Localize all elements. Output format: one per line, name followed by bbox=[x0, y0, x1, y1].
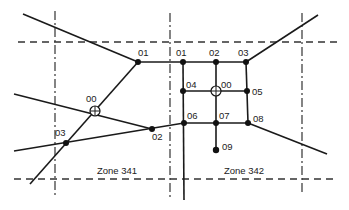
zone-341-label: Zone 341 bbox=[97, 165, 137, 176]
label-342-08: 08 bbox=[253, 113, 264, 124]
label-342-03: 03 bbox=[238, 47, 249, 58]
label-342-00: 00 bbox=[221, 79, 232, 90]
label-342-01: 01 bbox=[176, 47, 187, 58]
label-342-04: 04 bbox=[186, 79, 197, 90]
centroid-342-icon bbox=[211, 86, 221, 96]
label-341-03: 03 bbox=[55, 127, 66, 138]
zone-network-diagram: 01 00 02 03 01 02 03 04 00 05 06 07 08 0… bbox=[0, 0, 349, 210]
link-col-left bbox=[183, 62, 184, 200]
label-342-06: 06 bbox=[187, 110, 198, 121]
link-03-to-ne bbox=[246, 15, 318, 62]
node-342-08 bbox=[245, 120, 251, 126]
node-341-03 bbox=[63, 140, 69, 146]
node-342-02 bbox=[213, 59, 219, 65]
zone-341-links bbox=[14, 14, 184, 184]
node-342-09 bbox=[213, 147, 219, 153]
link-08-to-se bbox=[248, 123, 327, 154]
label-342-07: 07 bbox=[219, 110, 230, 121]
node-341-01 bbox=[135, 59, 141, 65]
node-342-03 bbox=[243, 59, 249, 65]
label-342-02: 02 bbox=[209, 47, 220, 58]
centroid-341-icon bbox=[90, 106, 100, 116]
label-342-05: 05 bbox=[252, 86, 263, 97]
link-nw-to-01 bbox=[23, 14, 138, 62]
node-342-05 bbox=[244, 88, 250, 94]
zone-341-nodes bbox=[63, 59, 155, 146]
label-341-01: 01 bbox=[138, 47, 149, 58]
label-341-00: 00 bbox=[86, 93, 97, 104]
node-342-01 bbox=[180, 59, 186, 65]
label-342-09: 09 bbox=[222, 141, 233, 152]
label-341-02: 02 bbox=[152, 131, 163, 142]
zone-342-label: Zone 342 bbox=[224, 165, 264, 176]
zone-boundaries bbox=[14, 11, 340, 200]
